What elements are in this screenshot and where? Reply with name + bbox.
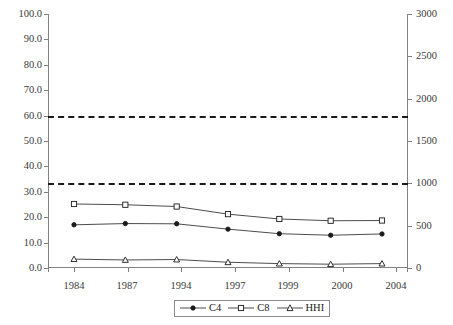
tick-mark: [48, 268, 49, 272]
data-point-filled-circle-icon: [123, 221, 127, 225]
legend-marker-filled-circle-icon: [180, 303, 206, 313]
y-right-tick-label: 0: [416, 263, 453, 274]
chart-container: 100.0 90.0 80.0 70.0 60.0 50.0 40.0 30.0…: [0, 0, 453, 325]
y-left-tick-label: 50.0: [0, 136, 42, 147]
data-point-open-square-icon: [379, 218, 384, 223]
series-c4: [72, 221, 384, 237]
data-point-open-square-icon: [328, 218, 333, 223]
chart-legend: C4 C8 HHI: [174, 300, 330, 317]
y-left-tick-label: 60.0: [0, 111, 42, 122]
y-left-tick-label: 100.0: [0, 9, 42, 20]
x-tick-label: 1984: [44, 281, 104, 292]
data-point-open-square-icon: [123, 202, 128, 207]
y-left-tick-label: 70.0: [0, 85, 42, 96]
y-right-tick-label: 500: [416, 221, 453, 232]
legend-item-c8: C8: [228, 302, 269, 314]
tick-mark: [74, 268, 75, 272]
data-point-open-square-icon: [225, 212, 230, 217]
tick-mark: [181, 268, 182, 272]
tick-mark: [343, 268, 344, 272]
legend-item-c4: C4: [180, 302, 221, 314]
data-point-open-square-icon: [174, 204, 179, 209]
tick-mark: [235, 268, 236, 272]
legend-marker-open-triangle-icon: [277, 303, 303, 313]
y-left-tick-label: 80.0: [0, 60, 42, 71]
series-c8: [71, 201, 384, 223]
data-point-filled-circle-icon: [174, 222, 178, 226]
tick-mark: [408, 99, 412, 100]
y-left-tick-label: 30.0: [0, 187, 42, 198]
y-right-tick-label: 1000: [416, 178, 453, 189]
y-left-tick-label: 10.0: [0, 238, 42, 249]
data-point-filled-circle-icon: [226, 227, 230, 231]
data-point-open-square-icon: [277, 216, 282, 221]
x-tick-label: 1994: [151, 281, 211, 292]
series-plot: [48, 14, 408, 268]
tick-mark: [408, 226, 412, 227]
tick-mark: [408, 56, 412, 57]
tick-mark: [289, 268, 290, 272]
legend-label-c4: C4: [209, 302, 221, 314]
y-right-tick-label: 2000: [416, 94, 453, 105]
tick-mark: [128, 268, 129, 272]
x-tick-label: 1997: [205, 281, 265, 292]
tick-mark: [408, 268, 412, 269]
data-point-filled-circle-icon: [328, 233, 332, 237]
tick-mark: [396, 268, 397, 272]
tick-mark: [408, 141, 412, 142]
x-tick-label: 2004: [366, 281, 426, 292]
data-point-filled-circle-icon: [380, 232, 384, 236]
data-point-open-square-icon: [71, 201, 76, 206]
data-point-filled-circle-icon: [72, 223, 76, 227]
legend-label-hhi: HHI: [306, 302, 325, 314]
x-tick-label: 1987: [97, 281, 157, 292]
series-hhi: [71, 256, 385, 266]
plot-area: [48, 14, 408, 268]
tick-mark: [408, 183, 412, 184]
x-tick-label: 2000: [312, 281, 372, 292]
y-left-tick-label: 90.0: [0, 34, 42, 45]
y-left-tick-label: 0.0: [0, 263, 42, 274]
y-right-tick-label: 1500: [416, 136, 453, 147]
tick-mark: [408, 14, 412, 15]
y-right-tick-label: 2500: [416, 51, 453, 62]
tick-mark: [407, 268, 408, 272]
legend-label-c8: C8: [257, 302, 269, 314]
data-point-filled-circle-icon: [277, 232, 281, 236]
y-left-tick-label: 40.0: [0, 161, 42, 172]
y-right-tick-label: 3000: [416, 9, 453, 20]
x-tick-label: 1999: [258, 281, 318, 292]
legend-item-hhi: HHI: [277, 302, 325, 314]
legend-marker-open-square-icon: [228, 303, 254, 313]
y-left-tick-label: 20.0: [0, 212, 42, 223]
